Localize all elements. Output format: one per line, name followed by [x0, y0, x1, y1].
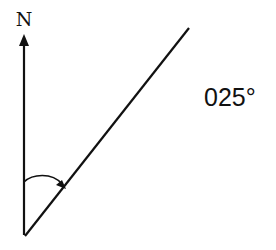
bearing-diagram: N 025°: [0, 0, 276, 250]
north-label: N: [16, 8, 33, 30]
bearing-label: 025°: [204, 83, 256, 111]
bearing-line: [25, 28, 189, 236]
angle-arc: [24, 176, 62, 185]
north-arrow-icon: [19, 34, 29, 46]
